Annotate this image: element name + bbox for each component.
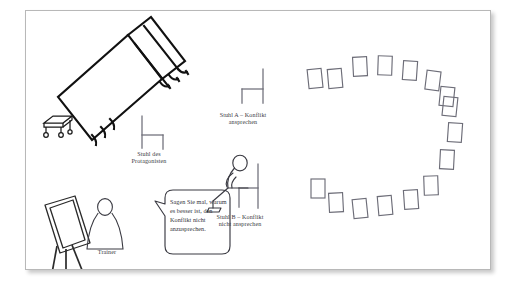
label-chair-a: Stuhl A – Konflikt ansprechen xyxy=(188,112,298,127)
chair-circle-item xyxy=(327,68,343,88)
flipchart-easel-icon xyxy=(45,196,90,270)
speech-bubble-text: Sagen Sie mal, warum es besser ist, den … xyxy=(170,197,232,233)
figure-canvas: Stuhl A – Konflikt ansprechen Stuhl des … xyxy=(0,0,517,291)
chair-circle-item xyxy=(377,195,393,215)
chair-circle-item xyxy=(403,190,418,210)
chair-circle-item xyxy=(424,176,439,195)
chair-circle-item xyxy=(311,179,325,198)
chair-circle-item xyxy=(353,57,368,77)
trainer-figure-icon xyxy=(87,199,123,249)
label-chair-protagonist: Stuhl des Protagonisten xyxy=(94,151,204,166)
chair-protagonist-icon xyxy=(142,116,163,149)
scene: Stuhl A – Konflikt ansprechen Stuhl des … xyxy=(26,11,490,269)
table-large-icon xyxy=(58,17,188,145)
chair-circle-item xyxy=(439,150,454,170)
chair-circle-item xyxy=(307,68,323,88)
diagram-panel: Stuhl A – Konflikt ansprechen Stuhl des … xyxy=(25,10,491,270)
chair-circle-item xyxy=(425,70,441,91)
scene-drawing xyxy=(26,11,491,270)
chair-a-icon xyxy=(242,69,263,103)
chair-circle-item xyxy=(378,56,393,75)
chair-circle-item xyxy=(352,198,368,218)
chair-circle-item xyxy=(447,123,462,143)
chair-circle-item xyxy=(402,61,417,81)
chair-circle-item xyxy=(329,193,344,213)
chair-circle-group xyxy=(307,56,463,219)
label-trainer: Trainer xyxy=(74,249,140,256)
trolley-small-icon xyxy=(44,116,72,137)
